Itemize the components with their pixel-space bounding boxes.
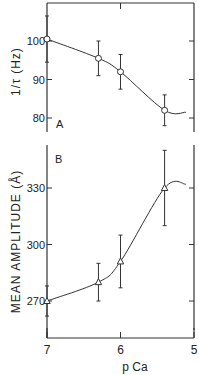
panel-a: 8090100A1/τ (Hz) xyxy=(9,3,194,132)
y-axis-title: 1/τ (Hz) xyxy=(9,47,23,96)
y-axis-title: MEAN AMPLITUDE (Å) xyxy=(8,170,23,313)
figure: 8090100A1/τ (Hz)270300330BMEAN AMPLITUDE… xyxy=(0,0,199,375)
data-point xyxy=(95,41,101,76)
x-tick-label: 6 xyxy=(117,343,124,357)
x-axis: 765p Ca xyxy=(44,328,198,374)
data-point xyxy=(162,95,168,126)
x-tick-label: 5 xyxy=(191,343,198,357)
triangle-marker xyxy=(95,279,101,285)
y-tick-label: 300 xyxy=(27,239,45,251)
panel-b: 270300330BMEAN AMPLITUDE (Å) xyxy=(8,145,194,338)
data-point xyxy=(161,150,167,225)
data-point xyxy=(44,286,50,316)
data-point xyxy=(44,16,50,62)
panel-label: B xyxy=(55,153,62,165)
y-tick-label: 90 xyxy=(33,74,45,86)
data-point xyxy=(117,235,123,288)
circle-marker xyxy=(118,69,124,75)
circle-marker xyxy=(95,55,101,61)
circle-marker xyxy=(44,36,50,42)
circle-marker xyxy=(162,107,168,113)
y-tick-label: 100 xyxy=(27,35,45,47)
y-tick-label: 330 xyxy=(27,182,45,194)
fit-curve xyxy=(47,181,186,301)
y-tick-label: 270 xyxy=(27,295,45,307)
x-tick-label: 7 xyxy=(44,343,51,357)
data-point xyxy=(118,54,124,89)
fit-curve xyxy=(47,39,186,114)
panel-label: A xyxy=(56,118,64,130)
data-point xyxy=(95,263,101,301)
x-axis-title: p Ca xyxy=(122,360,148,374)
y-tick-label: 80 xyxy=(33,112,45,124)
